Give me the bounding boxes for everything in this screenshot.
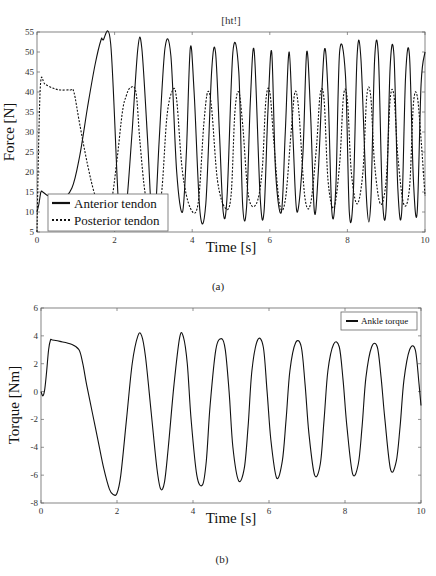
y-tick-label: 6	[34, 303, 39, 313]
x-tick-label: 8	[343, 506, 348, 516]
x-tick-label: 4	[191, 506, 196, 516]
y-tick-label: -4	[31, 442, 39, 452]
x-tick-label: 10	[421, 235, 431, 245]
chart-a-ylabel: Force [N]	[1, 103, 17, 162]
y-tick-label: 50	[25, 47, 35, 57]
legend-item-ankle-torque: Ankle torque	[361, 316, 408, 326]
chart-b: -8-6-4-20246 0246810 Time [s] Torque [Nm…	[6, 303, 426, 566]
y-tick-label: 45	[25, 67, 35, 77]
y-tick-label: 2	[34, 359, 39, 369]
chart-b-caption: (b)	[216, 553, 229, 566]
legend-item-posterior: Posterior tendon	[74, 213, 160, 228]
y-tick-label: -2	[31, 414, 39, 424]
figure: [ht!] 510152025303540455055 0246810 Time…	[0, 0, 436, 576]
chart-b-x-ticks: 0246810	[39, 308, 426, 516]
y-tick-label: 55	[25, 27, 35, 37]
chart-a-caption: (a)	[212, 280, 225, 293]
chart-a-legend: Anterior tendon Posterior tendon	[48, 194, 168, 231]
x-tick-label: 6	[268, 235, 273, 245]
x-tick-label: 0	[35, 235, 40, 245]
x-tick-label: 2	[115, 506, 120, 516]
x-tick-label: 0	[39, 506, 44, 516]
legend-item-anterior: Anterior tendon	[74, 196, 157, 211]
y-tick-label: 15	[25, 187, 35, 197]
y-tick-label: -6	[31, 470, 39, 480]
x-tick-label: 8	[345, 235, 350, 245]
y-tick-label: 10	[25, 207, 35, 217]
series-ankle-torque	[41, 333, 421, 496]
x-tick-label: 4	[190, 235, 195, 245]
chart-b-lines	[41, 333, 421, 496]
y-tick-label: 25	[25, 147, 35, 157]
chart-b-xlabel: Time [s]	[206, 510, 257, 526]
x-tick-label: 2	[112, 235, 117, 245]
chart-a-xlabel: Time [s]	[206, 239, 257, 255]
chart-a: [ht!] 510152025303540455055 0246810 Time…	[1, 14, 430, 293]
chart-b-y-ticks: -8-6-4-20246	[31, 303, 422, 508]
chart-a-title: [ht!]	[221, 14, 241, 26]
x-tick-label: 6	[267, 506, 272, 516]
y-tick-label: 35	[25, 107, 35, 117]
chart-b-ylabel: Torque [Nm]	[6, 366, 22, 445]
y-tick-label: 40	[25, 87, 35, 97]
chart-b-legend: Ankle torque	[341, 312, 417, 330]
y-tick-label: 30	[25, 127, 35, 137]
y-tick-label: 5	[30, 227, 35, 237]
y-tick-label: 0	[34, 387, 39, 397]
y-tick-label: -8	[31, 498, 39, 508]
x-tick-label: 10	[417, 506, 427, 516]
y-tick-label: 20	[25, 167, 35, 177]
y-tick-label: 4	[34, 331, 39, 341]
